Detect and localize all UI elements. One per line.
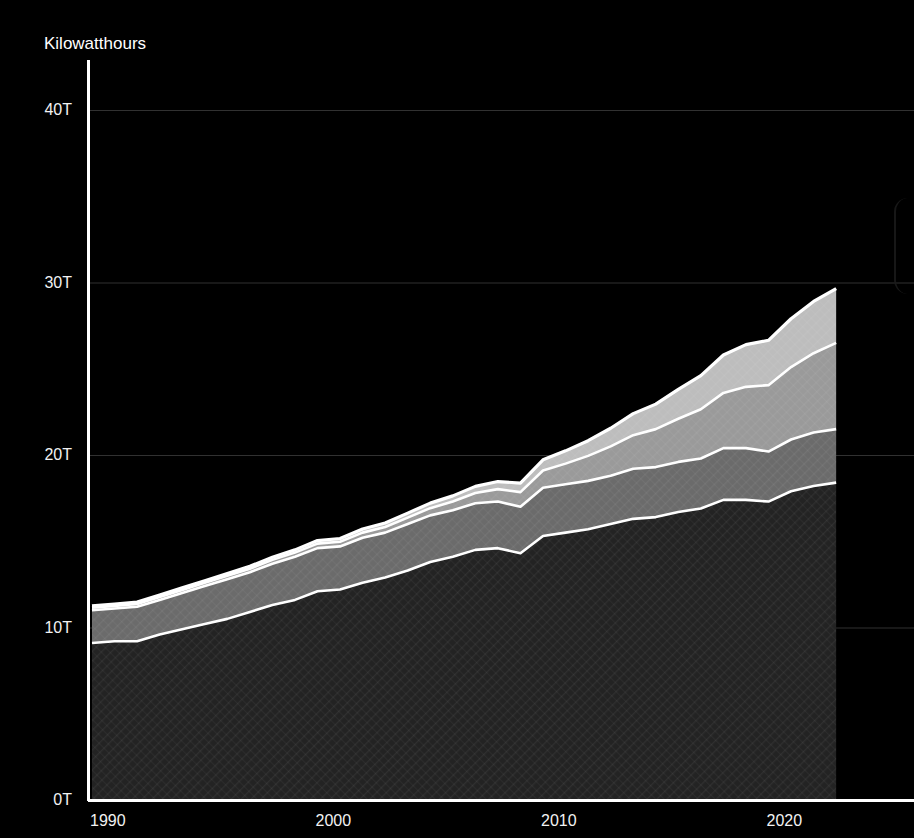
y-tick-label: 30T [16, 275, 72, 291]
y-tick-label: 40T [16, 102, 72, 118]
y-tick-label: 20T [16, 447, 72, 463]
y-axis-tick-labels: 0T10T20T30T40T [10, 0, 72, 838]
stacked-area-plot [0, 0, 914, 838]
y-tick-label: 10T [16, 620, 72, 636]
x-tick-label: 2010 [541, 812, 577, 830]
x-tick-label: 2020 [767, 812, 803, 830]
x-tick-label: 2000 [316, 812, 352, 830]
x-tick-label: 1990 [90, 812, 126, 830]
chart-root: Kilowatthours 0T10T20T30T40T 19902000201… [0, 0, 914, 838]
area-layers [92, 289, 836, 800]
y-tick-label: 0T [16, 792, 72, 808]
